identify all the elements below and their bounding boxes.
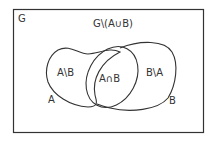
complement-label: G\(A∪B) bbox=[93, 18, 133, 29]
venn-diagram: G G\(A∪B) A\B A∩B B\A A B bbox=[0, 0, 214, 141]
region-a-minus-b-label: A\B bbox=[57, 67, 74, 78]
region-b-minus-a-label: B\A bbox=[146, 67, 163, 78]
set-a-label: A bbox=[48, 94, 55, 105]
region-intersection-label: A∩B bbox=[99, 73, 120, 84]
universe-label: G bbox=[18, 13, 26, 24]
set-b-label: B bbox=[169, 95, 176, 106]
